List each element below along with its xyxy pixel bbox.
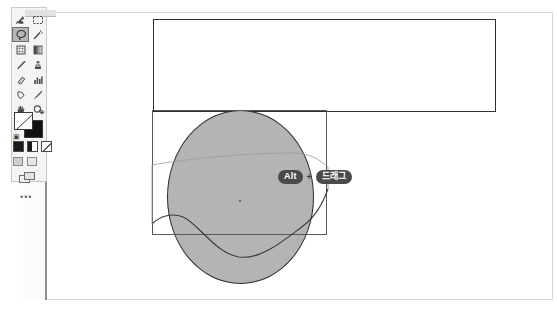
pen-icon	[15, 89, 27, 101]
tool-row	[12, 42, 46, 57]
tool-row	[12, 72, 46, 87]
standard-screen-mode-button[interactable]	[13, 157, 23, 166]
arrange-documents-icon[interactable]	[19, 172, 37, 184]
magic-wand-icon	[32, 29, 44, 41]
tool-pen-tool[interactable]	[12, 87, 29, 102]
tool-magic-wand-tool[interactable]	[29, 27, 46, 42]
action-key-badge: 드래그	[316, 170, 353, 184]
more-tools-button[interactable]: •••	[20, 194, 32, 200]
modifier-key-badge: Alt	[278, 170, 303, 184]
arrange-card-front	[24, 172, 35, 180]
tool-row	[12, 12, 46, 27]
tool-row	[12, 57, 46, 72]
eraser-icon	[15, 74, 27, 86]
swatch-diagonal-icon	[15, 113, 34, 131]
swap-colors-icon[interactable]: ↷	[38, 108, 45, 117]
move-icon	[15, 14, 27, 26]
tool-move-tool[interactable]	[12, 12, 29, 27]
stamp-icon	[32, 59, 44, 71]
shortcut-separator: +	[307, 172, 312, 183]
standard-mask-mode-button[interactable]	[13, 141, 24, 152]
tool-eyedropper-tool[interactable]	[29, 87, 46, 102]
blur-icon	[32, 74, 44, 86]
tool-row	[12, 87, 46, 102]
crop-icon	[15, 44, 27, 56]
full-screen-mode-button[interactable]	[27, 157, 37, 166]
background-rectangle[interactable]	[153, 19, 496, 112]
quick-mask-mode-button[interactable]	[27, 141, 38, 152]
tool-blur-tool[interactable]	[29, 72, 46, 87]
color-swatches[interactable]: ↷ ▣	[14, 112, 44, 138]
eyedropper-icon	[32, 89, 44, 101]
keyboard-shortcut-hint: Alt + 드래그	[278, 170, 352, 184]
center-anchor-point	[239, 200, 241, 202]
mask-mode-buttons[interactable]	[13, 141, 52, 152]
brush-icon	[15, 59, 27, 71]
alt-mask-mode-button[interactable]	[41, 141, 52, 152]
marquee-icon	[32, 14, 44, 26]
tool-gradient-tool[interactable]	[29, 42, 46, 57]
lasso-icon	[15, 29, 27, 41]
reset-colors-icon[interactable]: ▣	[13, 133, 20, 141]
tool-marquee-tool[interactable]	[29, 12, 46, 27]
foreground-color-swatch[interactable]	[14, 112, 33, 130]
tools-grid[interactable]	[12, 12, 46, 117]
artboard[interactable]: Alt + 드래그	[47, 13, 552, 299]
tool-eraser-tool[interactable]	[12, 72, 29, 87]
tool-crop-tool[interactable]	[12, 42, 29, 57]
editor-screenshot: Alt + 드래그	[0, 0, 557, 311]
tool-brush-tool[interactable]	[12, 57, 29, 72]
tool-lasso-tool[interactable]	[12, 27, 29, 42]
tool-row	[12, 27, 46, 42]
gradient-icon	[32, 44, 44, 56]
tool-stamp-tool[interactable]	[29, 57, 46, 72]
screen-mode-buttons[interactable]	[13, 157, 37, 166]
